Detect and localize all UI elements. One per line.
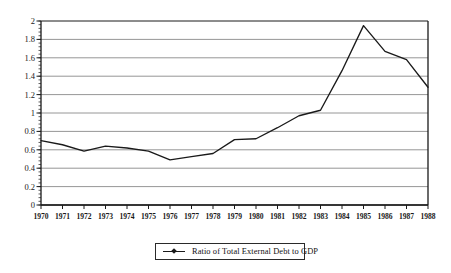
svg-text:2: 2 xyxy=(31,16,35,26)
chart-container: 00.20.40.60.811.21.41.61.82 197019711972… xyxy=(0,0,451,273)
svg-text:1.4: 1.4 xyxy=(24,71,35,81)
svg-text:1.6: 1.6 xyxy=(24,53,35,63)
svg-text:1984: 1984 xyxy=(334,212,349,221)
svg-text:1983: 1983 xyxy=(313,212,328,221)
data-series-line xyxy=(41,26,428,160)
x-axis-tick-labels: 1970197119721973197419751976197719781979… xyxy=(33,212,435,221)
svg-text:1979: 1979 xyxy=(227,212,242,221)
svg-text:1970: 1970 xyxy=(33,212,48,221)
svg-text:1971: 1971 xyxy=(55,212,70,221)
svg-text:1972: 1972 xyxy=(76,212,91,221)
svg-text:1.2: 1.2 xyxy=(24,90,35,100)
svg-text:1986: 1986 xyxy=(377,212,392,221)
svg-text:1987: 1987 xyxy=(399,212,414,221)
svg-text:0.8: 0.8 xyxy=(24,126,35,136)
svg-text:1974: 1974 xyxy=(119,212,134,221)
legend-label: Ratio of Total External Debt to GDP xyxy=(192,247,318,256)
svg-text:1978: 1978 xyxy=(205,212,220,221)
svg-text:0: 0 xyxy=(31,200,35,210)
svg-text:1985: 1985 xyxy=(356,212,371,221)
line-chart-svg: 00.20.40.60.811.21.41.61.82 197019711972… xyxy=(0,0,451,230)
x-axis xyxy=(41,205,428,209)
line-marker-icon xyxy=(163,247,185,257)
svg-text:0.4: 0.4 xyxy=(24,163,35,173)
svg-text:1975: 1975 xyxy=(141,212,156,221)
svg-text:0.6: 0.6 xyxy=(24,145,35,155)
svg-text:1.8: 1.8 xyxy=(24,34,35,44)
svg-text:1981: 1981 xyxy=(270,212,285,221)
svg-text:1976: 1976 xyxy=(162,212,177,221)
svg-text:1977: 1977 xyxy=(184,212,199,221)
svg-text:1982: 1982 xyxy=(291,212,306,221)
svg-text:0.2: 0.2 xyxy=(24,182,35,192)
svg-text:1980: 1980 xyxy=(248,212,263,221)
svg-text:1988: 1988 xyxy=(420,212,435,221)
svg-text:1973: 1973 xyxy=(98,212,113,221)
svg-text:1: 1 xyxy=(31,108,35,118)
y-axis-tick-labels: 00.20.40.60.811.21.41.61.82 xyxy=(24,16,35,210)
plot-area: 00.20.40.60.811.21.41.61.82 197019711972… xyxy=(0,0,451,230)
chart-legend: Ratio of Total External Debt to GDP xyxy=(155,243,305,260)
gridlines xyxy=(41,21,428,205)
